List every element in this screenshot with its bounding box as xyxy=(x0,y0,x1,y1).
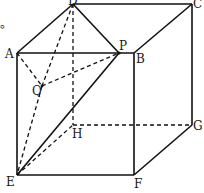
edge-QP xyxy=(42,53,119,86)
label-H: H xyxy=(72,127,82,141)
stray-mark: 。 xyxy=(0,17,12,31)
edge-EP xyxy=(17,53,119,175)
label-P: P xyxy=(119,39,127,53)
label-B: B xyxy=(136,52,145,66)
edge-DQ xyxy=(42,4,73,86)
label-D: D xyxy=(68,0,78,8)
label-C: C xyxy=(193,0,202,11)
edge-AQ xyxy=(17,53,42,86)
edge-AD xyxy=(17,4,73,53)
edge-DP xyxy=(73,4,119,53)
label-A: A xyxy=(4,47,14,61)
label-G: G xyxy=(193,119,203,133)
label-E: E xyxy=(6,175,15,189)
edge-QE xyxy=(17,86,42,175)
cube-diagram: 。 D C A P B Q H G E F xyxy=(0,0,204,193)
edge-EH xyxy=(17,125,73,175)
label-F: F xyxy=(134,177,142,191)
edge-FG xyxy=(134,125,192,175)
label-Q: Q xyxy=(32,84,42,98)
edge-BC xyxy=(134,4,192,53)
